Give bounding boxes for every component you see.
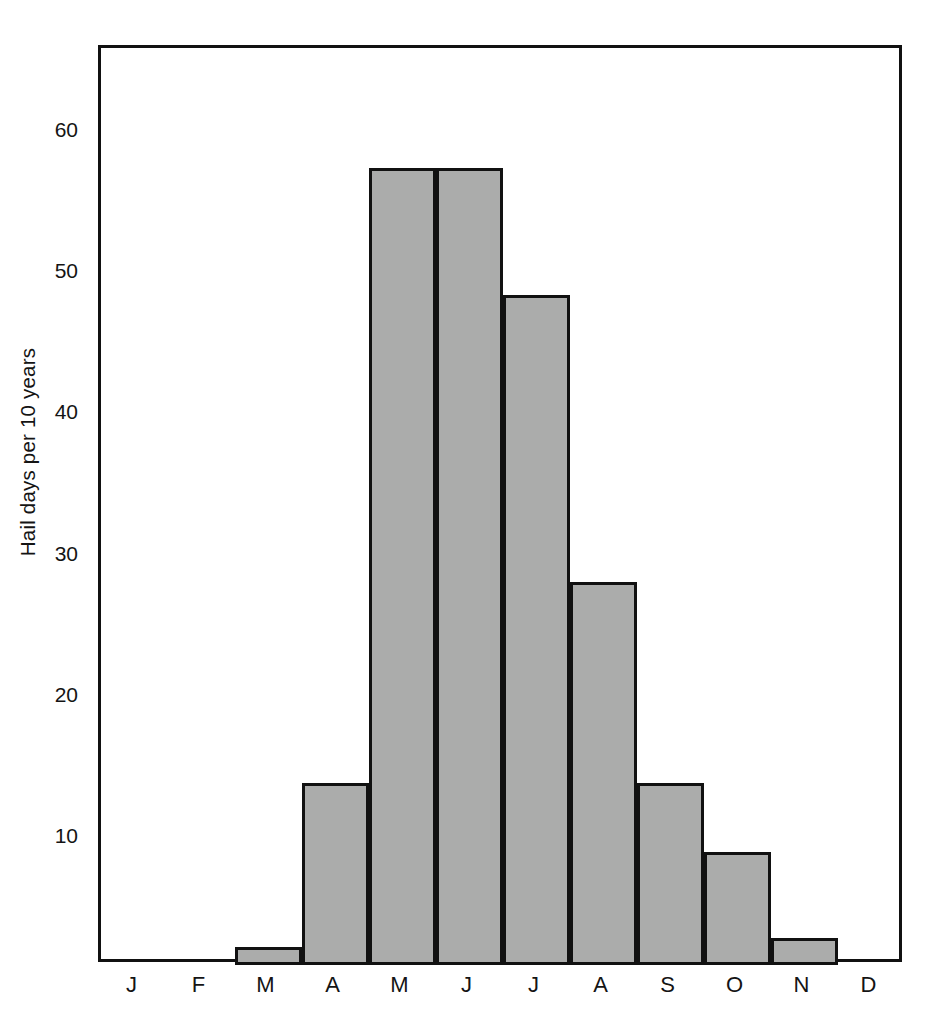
x-axis-tick-label-january: J — [98, 972, 165, 998]
bar-march — [235, 947, 302, 965]
bars-container — [101, 48, 899, 959]
x-axis-tick-label-september: S — [634, 972, 701, 998]
y-axis-tick-label-wrap: 10 — [20, 825, 78, 847]
y-axis-tick-label: 10 — [20, 825, 78, 846]
y-axis-tick-label-wrap: 40 — [20, 401, 78, 423]
y-axis-tick-label: 40 — [20, 401, 78, 422]
y-axis-tick-label-wrap: 60 — [20, 119, 78, 141]
x-axis-tick-label-february: F — [165, 972, 232, 998]
bar-april — [302, 783, 369, 965]
bar-may — [369, 168, 436, 965]
y-axis-tick-label: 60 — [20, 119, 78, 140]
x-axis-tick-label-november: N — [768, 972, 835, 998]
y-axis-tick-label-wrap: 30 — [20, 543, 78, 565]
y-axis-tick-label: 20 — [20, 684, 78, 705]
x-axis-tick-label-july: J — [500, 972, 567, 998]
y-axis-title-text: Hail days per 10 years — [16, 348, 40, 556]
x-axis-tick-labels: JFMAMJJASOND — [98, 972, 902, 1012]
bar-august — [570, 582, 637, 965]
x-axis-tick-label-june: J — [433, 972, 500, 998]
x-axis-tick-label-october: O — [701, 972, 768, 998]
x-axis-tick-label-april: A — [299, 972, 366, 998]
x-axis-tick-label-march: M — [232, 972, 299, 998]
plot-area — [98, 45, 902, 962]
x-axis-tick-label-december: D — [835, 972, 902, 998]
y-axis-title: Hail days per 10 years — [0, 0, 56, 1024]
bar-october — [704, 852, 771, 965]
x-axis-tick-label-may: M — [366, 972, 433, 998]
bar-july — [503, 295, 570, 965]
y-axis-tick-label-wrap: 50 — [20, 260, 78, 282]
bar-june — [436, 168, 503, 965]
y-axis-tick-label: 50 — [20, 260, 78, 281]
y-axis-tick-label: 30 — [20, 543, 78, 564]
bar-november — [771, 938, 838, 965]
y-axis-tick-label-wrap: 20 — [20, 684, 78, 706]
x-axis-tick-label-august: A — [567, 972, 634, 998]
bar-september — [637, 783, 704, 965]
hail-days-bar-chart-figure: Hail days per 10 years 102030405060 JFMA… — [0, 0, 942, 1024]
